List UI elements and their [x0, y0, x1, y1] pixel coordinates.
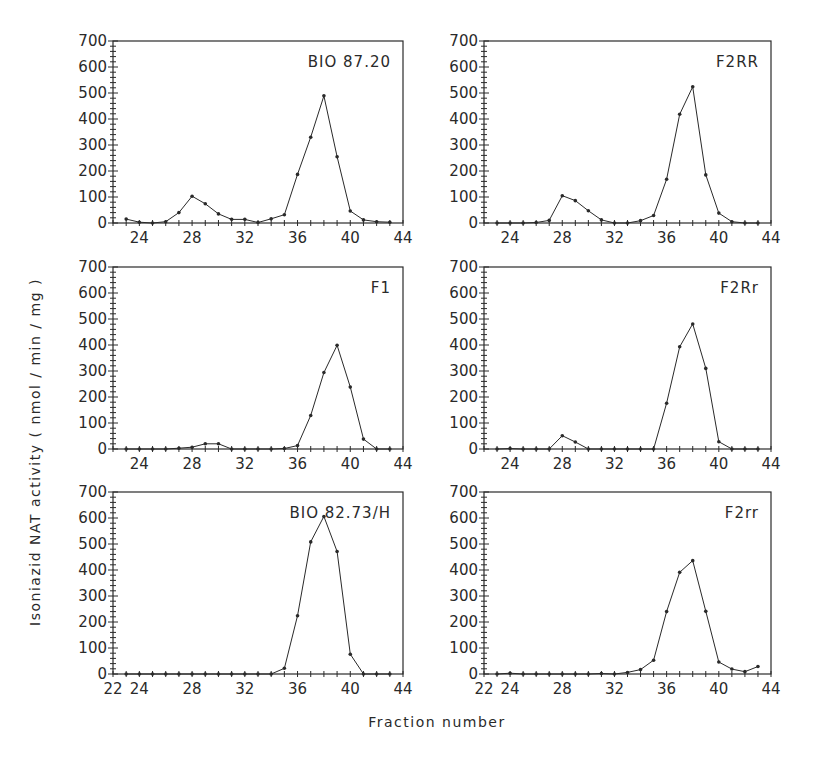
x-tick-label: 36	[657, 455, 676, 473]
data-point	[362, 218, 366, 222]
data-point	[217, 672, 221, 676]
data-point	[587, 209, 591, 213]
data-point	[283, 213, 287, 217]
x-tick-label: 24	[501, 680, 520, 698]
data-point	[322, 94, 326, 98]
x-tick-label: 36	[288, 455, 307, 473]
data-point	[348, 209, 352, 213]
data-point	[256, 447, 260, 451]
data-point	[495, 672, 499, 676]
data-point	[639, 447, 643, 451]
data-point	[743, 670, 747, 674]
y-tick-label: 100	[78, 188, 107, 206]
data-point	[164, 220, 168, 224]
y-tick-label: 500	[449, 84, 478, 102]
data-point	[256, 221, 260, 225]
x-tick-label: 44	[761, 680, 780, 698]
data-point	[521, 447, 525, 451]
x-tick-label: 24	[130, 455, 149, 473]
data-point	[283, 666, 287, 670]
y-tick-label: 600	[449, 509, 478, 527]
y-tick-label: 0	[97, 214, 107, 232]
data-point	[322, 371, 326, 375]
panel-3: 0100200300400500600700242832364044F2Rr	[449, 258, 780, 473]
x-tick-label: 40	[709, 680, 728, 698]
x-tick-label: 40	[341, 455, 360, 473]
y-tick-label: 700	[449, 32, 478, 50]
data-point	[124, 672, 128, 676]
x-tick-label: 40	[341, 229, 360, 247]
x-tick-label: 40	[709, 455, 728, 473]
data-point	[508, 447, 512, 451]
y-tick-label: 400	[78, 561, 107, 579]
y-tick-label: 300	[78, 136, 107, 154]
data-point	[534, 447, 538, 451]
data-point	[574, 199, 578, 203]
x-tick-label: 36	[288, 680, 307, 698]
data-point	[730, 447, 734, 451]
x-tick-label: 24	[501, 229, 520, 247]
data-point	[164, 447, 168, 451]
data-point	[124, 447, 128, 451]
data-point	[613, 221, 617, 225]
x-tick-label: 40	[341, 680, 360, 698]
panel-5: 010020030040050060070022242832364044F2rr	[449, 483, 780, 698]
data-point	[177, 446, 181, 450]
data-point	[691, 322, 695, 326]
x-tick-label: 44	[393, 455, 412, 473]
y-tick-label: 500	[449, 535, 478, 553]
data-point	[534, 672, 538, 676]
x-tick-label: 24	[130, 680, 149, 698]
data-point	[203, 672, 207, 676]
data-point	[309, 135, 313, 139]
data-point	[138, 447, 142, 451]
y-tick-label: 500	[78, 535, 107, 553]
y-tick-label: 700	[449, 258, 478, 276]
data-point	[203, 442, 207, 446]
data-point	[652, 447, 656, 451]
y-tick-label: 0	[97, 440, 107, 458]
data-point	[269, 672, 273, 676]
data-point	[388, 220, 392, 224]
data-point	[574, 440, 578, 444]
data-point	[521, 672, 525, 676]
data-point	[230, 672, 234, 676]
x-tick-label: 44	[393, 680, 412, 698]
y-tick-label: 100	[78, 414, 107, 432]
y-tick-label: 200	[78, 613, 107, 631]
x-tick-label: 28	[183, 455, 202, 473]
data-point	[243, 447, 247, 451]
data-point	[600, 672, 604, 676]
data-point	[665, 610, 669, 614]
data-point	[230, 447, 234, 451]
series-line	[497, 561, 758, 674]
data-point	[626, 447, 630, 451]
x-tick-label: 44	[393, 229, 412, 247]
panel-label: F2Rr	[720, 279, 759, 297]
y-tick-label: 700	[449, 483, 478, 501]
panel-1: 0100200300400500600700242832364044F2RR	[449, 32, 780, 247]
data-point	[560, 194, 564, 198]
y-tick-label: 400	[78, 336, 107, 354]
data-point	[743, 221, 747, 225]
data-point	[375, 672, 379, 676]
y-tick-label: 300	[449, 362, 478, 380]
data-point	[283, 447, 287, 451]
figure: 0100200300400500600700242832364044BIO 87…	[0, 0, 819, 766]
panel-label: BIO 82.73/H	[289, 504, 391, 522]
x-tick-label: 44	[761, 455, 780, 473]
y-tick-label: 400	[449, 561, 478, 579]
data-point	[296, 444, 300, 448]
data-point	[309, 540, 313, 544]
y-tick-label: 400	[78, 110, 107, 128]
data-point	[704, 610, 708, 614]
x-tick-label: 28	[553, 455, 572, 473]
data-point	[613, 672, 617, 676]
x-tick-label: 22	[474, 680, 493, 698]
panel-4: 010020030040050060070022242832364044BIO …	[78, 483, 412, 698]
y-tick-label: 200	[78, 162, 107, 180]
data-point	[743, 447, 747, 451]
data-point	[495, 447, 499, 451]
x-tick-label: 36	[288, 229, 307, 247]
data-point	[151, 672, 155, 676]
